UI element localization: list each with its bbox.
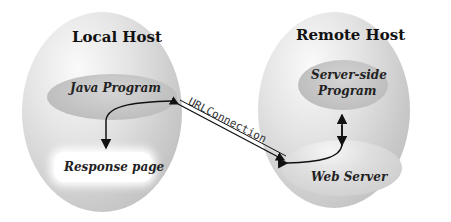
connector-arrows <box>0 0 451 222</box>
